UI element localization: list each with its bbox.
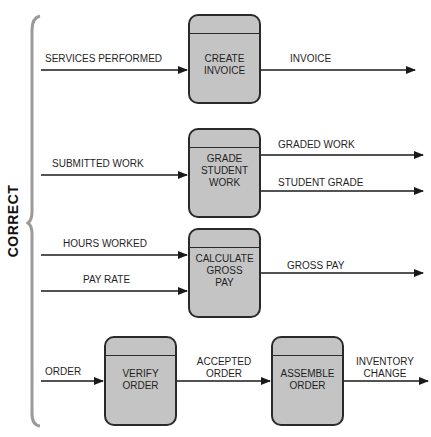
flow-label-invoice: INVOICE: [290, 53, 331, 65]
brace: [28, 16, 40, 426]
flow-label-gross-pay: GROSS PAY: [287, 260, 344, 272]
process-header: [106, 338, 175, 356]
process-verify-order: VERIFY ORDER: [104, 336, 177, 426]
process-calculate-gross-pay: CALCULATE GROSS PAY: [188, 228, 261, 318]
process-create-invoice: CREATE INVOICE: [188, 14, 261, 104]
flow-label-line: ORDER: [197, 368, 251, 380]
process-grade-student-work: GRADE STUDENT WORK: [188, 128, 261, 218]
process-header: [273, 338, 342, 356]
flow-label-hours-worked: HOURS WORKED: [63, 238, 147, 250]
flow-label-student-grade: STUDENT GRADE: [278, 177, 363, 189]
side-label-correct: CORRECT: [5, 185, 21, 258]
flow-label-order: ORDER: [45, 366, 81, 378]
flow-label-graded-work: GRADED WORK: [278, 139, 355, 151]
flow-label-line: CHANGE: [356, 368, 414, 380]
process-label: GRADE STUDENT WORK: [190, 153, 259, 189]
process-label: ASSEMBLE ORDER: [273, 368, 342, 392]
process-label: VERIFY ORDER: [106, 368, 175, 392]
process-label: CREATE INVOICE: [190, 53, 259, 77]
flow-label-line: INVENTORY: [356, 356, 414, 368]
process-assemble-order: ASSEMBLE ORDER: [271, 336, 344, 426]
process-header: [190, 230, 259, 248]
flow-label-pay-rate: PAY RATE: [83, 274, 130, 286]
flow-label-inventory-change: INVENTORY CHANGE: [356, 356, 414, 380]
flow-label-line: ACCEPTED: [197, 356, 251, 368]
process-header: [190, 16, 259, 34]
process-label: CALCULATE GROSS PAY: [190, 253, 259, 289]
process-header: [190, 130, 259, 148]
flow-label-accepted-order: ACCEPTED ORDER: [197, 356, 251, 380]
flow-label-submitted-work: SUBMITTED WORK: [52, 158, 144, 170]
flow-label-services-performed: SERVICES PERFORMED: [45, 53, 162, 65]
